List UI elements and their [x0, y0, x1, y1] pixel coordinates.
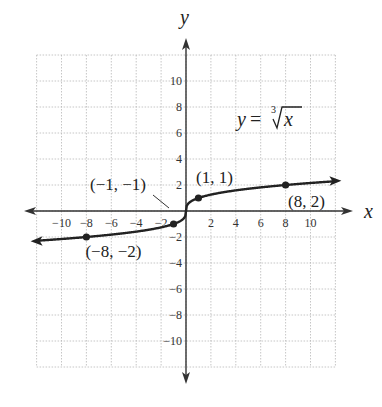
x-tick-label: −4 [130, 216, 143, 230]
y-tick-label: 6 [176, 126, 182, 140]
svg-text:y=: y= [235, 108, 261, 131]
y-tick-label: 2 [176, 178, 182, 192]
x-tick-label: 4 [233, 216, 239, 230]
svg-text:x: x [283, 108, 293, 130]
data-point [83, 233, 90, 240]
y-tick-label: −4 [169, 256, 182, 270]
chart-labels: x y y= 3 x [178, 6, 373, 222]
y-tick-label: −6 [169, 282, 182, 296]
x-tick-label: −10 [52, 216, 71, 230]
y-tick-label: −8 [169, 308, 182, 322]
y-axis-label: y [178, 6, 189, 29]
data-point [195, 194, 202, 201]
radical-index: 3 [271, 104, 276, 115]
point-label: (−1, −1) [90, 175, 146, 194]
x-tick-label: 10 [305, 216, 317, 230]
point-label: (−8, −2) [85, 242, 141, 261]
equation-label: y= 3 x [235, 104, 302, 131]
data-point [170, 220, 177, 227]
x-tick-label: 8 [283, 216, 289, 230]
x-tick-label: 2 [208, 216, 214, 230]
y-tick-label: 4 [176, 152, 182, 166]
y-tick-label: −10 [163, 334, 182, 348]
x-axis-label: x [363, 200, 373, 222]
labeled-points: (−8, −2)(−1, −1)(1, 1)(8, 2) [83, 168, 325, 261]
y-tick-label: −2 [169, 230, 182, 244]
x-tick-label: 6 [258, 216, 264, 230]
data-point [282, 181, 289, 188]
x-tick-label: −6 [105, 216, 118, 230]
y-tick-label: 8 [176, 100, 182, 114]
y-tick-label: 10 [170, 74, 182, 88]
axes [24, 38, 353, 384]
cube-root-graph: −10−8−6−4−2246810−10−8−6−4−2246810 (−8, … [0, 0, 382, 407]
point-label: (8, 2) [288, 192, 325, 211]
point-label: (1, 1) [196, 168, 233, 187]
x-tick-label: −8 [80, 216, 93, 230]
